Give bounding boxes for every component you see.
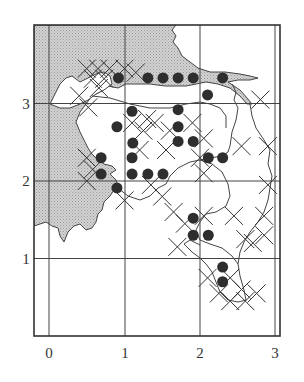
dot-marker	[188, 72, 199, 83]
dot-marker	[142, 169, 153, 180]
dot-marker	[173, 72, 184, 83]
distribution-map: 0 1 2 3 1 2 3	[0, 0, 304, 382]
cross-icon	[168, 238, 186, 256]
cross-icon	[244, 234, 262, 252]
dot-marker	[158, 169, 169, 180]
dot-marker	[188, 136, 199, 147]
dot-marker	[113, 72, 124, 83]
cross-icon	[195, 164, 213, 182]
x-tick-0: 0	[45, 345, 53, 361]
cross-icon	[251, 91, 269, 109]
map-area	[34, 25, 272, 302]
y-tick-2: 2	[22, 173, 30, 189]
cross-icon	[225, 207, 243, 225]
cross-icon	[233, 137, 251, 155]
dot-marker	[217, 72, 228, 83]
y-tick-1: 1	[22, 251, 30, 267]
y-axis-ticks: 1 2 3	[22, 96, 30, 267]
cross-icon	[146, 114, 164, 132]
x-tick-1: 1	[121, 345, 129, 361]
dot-marker	[217, 262, 228, 273]
cross-icon	[259, 137, 277, 155]
dot-marker	[111, 182, 122, 193]
coast-line	[92, 96, 226, 128]
dot-marker	[127, 106, 138, 117]
coast-line	[196, 160, 238, 264]
dot-marker	[202, 89, 213, 100]
dot-marker	[203, 230, 214, 241]
dot-marker	[111, 121, 122, 132]
dot-marker	[203, 152, 214, 163]
cross-icon	[248, 284, 266, 302]
dot-marker	[173, 121, 184, 132]
dot-marker	[217, 152, 228, 163]
cross-icon	[134, 122, 152, 140]
cross-icon	[236, 230, 254, 248]
dot-marker	[188, 230, 199, 241]
dot-marker	[127, 169, 138, 180]
cross-icon	[138, 110, 156, 128]
cross-icon	[259, 176, 277, 194]
x-tick-3: 3	[271, 345, 279, 361]
y-tick-3: 3	[22, 96, 30, 112]
dot-marker	[173, 136, 184, 147]
dot-marker	[142, 72, 153, 83]
dot-marker	[96, 152, 107, 163]
cross-icon	[255, 207, 273, 225]
dot-marker	[188, 213, 199, 224]
cross-icon	[210, 284, 228, 302]
dot-marker	[127, 138, 138, 149]
cross-icon	[255, 226, 273, 244]
cross-icon	[157, 141, 175, 159]
dot-marker	[96, 169, 107, 180]
cross-icon	[183, 114, 201, 132]
dot-marker	[217, 276, 228, 287]
x-tick-2: 2	[196, 345, 204, 361]
x-axis-ticks: 0 1 2 3	[45, 345, 279, 361]
dot-marker	[173, 104, 184, 115]
dot-marker	[127, 152, 138, 163]
river-line	[238, 104, 272, 300]
cross-icon	[153, 188, 171, 206]
dot-marker	[158, 72, 169, 83]
